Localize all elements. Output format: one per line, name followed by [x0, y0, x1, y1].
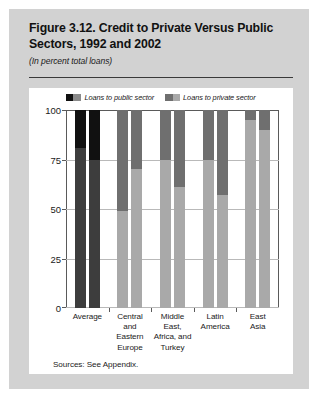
bar-segment-private	[203, 160, 214, 309]
bar-segment-public	[174, 110, 185, 187]
private-sector-swatch-icon	[165, 94, 180, 101]
x-axis-label-0: Average	[66, 312, 109, 322]
bar-segment-public	[117, 110, 128, 211]
bar-groups	[66, 110, 279, 308]
bar-middle-east-africa-and-turkey-2002	[174, 110, 185, 308]
bar-segment-private	[75, 148, 86, 308]
bar-central-and-eastern-europe-1992	[117, 110, 128, 308]
figure-subtitle: (In percent total loans)	[29, 56, 293, 66]
title-divider	[29, 77, 293, 78]
bar-middle-east-africa-and-turkey-1992	[160, 110, 171, 308]
x-axis-label-4: East Asia	[236, 312, 279, 332]
bar-segment-private	[160, 160, 171, 309]
y-tick-label-75: 75	[50, 154, 61, 165]
bar-segment-public	[203, 110, 214, 160]
bar-central-and-eastern-europe-2002	[131, 110, 142, 308]
legend-label-public-sector: Loans to public sector	[84, 93, 154, 102]
plot-area: 0255075100	[66, 110, 279, 308]
bar-segment-private	[217, 195, 228, 308]
y-tick-label-25: 25	[50, 253, 61, 264]
bar-latin-america-2002	[217, 110, 228, 308]
y-tick-label-100: 100	[45, 105, 61, 116]
bar-segment-private	[174, 187, 185, 308]
bar-segment-public	[131, 110, 142, 169]
legend-label-private-sector: Loans to private sector	[183, 93, 255, 102]
public-sector-swatch-icon	[66, 94, 81, 101]
bar-segment-private	[245, 120, 256, 308]
y-tick-label-0: 0	[56, 303, 61, 314]
bar-segment-public	[160, 110, 171, 160]
figure-title: Figure 3.12. Credit to Private Versus Pu…	[29, 21, 293, 52]
y-tick-label-50: 50	[50, 204, 61, 215]
bar-segment-private	[259, 130, 270, 308]
legend-item-private-sector: Loans to private sector	[165, 93, 255, 102]
bar-segment-private	[117, 211, 128, 308]
figure-container: Figure 3.12. Credit to Private Versus Pu…	[9, 9, 309, 389]
x-axis-label-1: Central and Eastern Europe	[109, 312, 152, 353]
bar-segment-public	[217, 110, 228, 195]
sources-note: Sources: See Appendix.	[53, 360, 138, 369]
chart-legend: Loans to public sector Loans to private …	[29, 93, 293, 102]
bar-latin-america-1992	[203, 110, 214, 308]
bar-segment-private	[131, 169, 142, 308]
bar-segment-public	[259, 110, 270, 130]
bar-average-1992	[75, 110, 86, 308]
x-axis-label-3: Latin America	[194, 312, 237, 332]
bar-segment-public	[89, 110, 100, 160]
bar-east-asia-1992	[245, 110, 256, 308]
bar-east-asia-2002	[259, 110, 270, 308]
x-axis-label-2: Middle East, Africa, and Turkey	[151, 312, 194, 353]
bar-average-2002	[89, 110, 100, 308]
chart-card: Loans to public sector Loans to private …	[29, 88, 293, 374]
bar-segment-public	[245, 110, 256, 120]
legend-item-public-sector: Loans to public sector	[66, 93, 154, 102]
bar-segment-public	[75, 110, 86, 148]
figure-header: Figure 3.12. Credit to Private Versus Pu…	[29, 21, 293, 66]
bar-segment-private	[89, 160, 100, 309]
